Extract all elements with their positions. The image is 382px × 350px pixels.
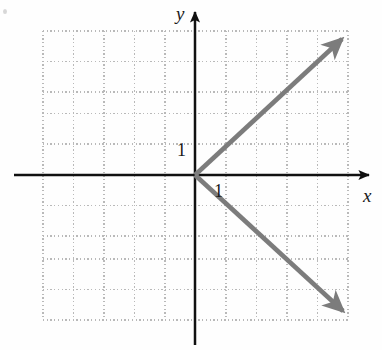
y-axis-label: y xyxy=(176,4,184,23)
graph-figure: y x 1 1 xyxy=(0,0,382,350)
x-axis-tick-label-1: 1 xyxy=(214,182,223,200)
x-axis-label: x xyxy=(363,186,371,205)
y-axis-tick-label-1: 1 xyxy=(177,141,186,159)
line-y-equals-x xyxy=(195,39,342,175)
coordinate-plane-svg xyxy=(0,0,382,350)
